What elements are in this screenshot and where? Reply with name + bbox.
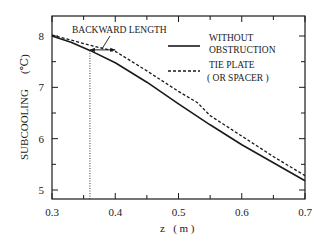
axis-tick-labels: 0.30.40.50.60.75678: [39, 30, 313, 218]
plot-frame: [52, 16, 305, 199]
y-tick-label: 8: [39, 30, 45, 42]
legend: WITHOUT OBSTRUCTION TIE PLATE ( OR SPACE…: [168, 33, 276, 84]
legend-solid-label-2: OBSTRUCTION: [209, 45, 276, 55]
y-tick-label: 7: [39, 81, 45, 93]
legend-solid-label-1: WITHOUT: [209, 33, 254, 43]
axis-ticks: [52, 16, 305, 199]
y-axis-unit: (℃): [18, 54, 31, 74]
x-tick-label: 0.6: [235, 206, 249, 218]
y-tick-label: 5: [39, 184, 45, 196]
line-chart: 0.30.40.50.60.75678 WITHOUT OBSTRUCTION …: [0, 0, 327, 247]
legend-dashed-label-2: ( OR SPACER ): [207, 73, 269, 84]
x-tick-label: 0.4: [108, 206, 122, 218]
y-tick-label: 6: [39, 133, 45, 145]
plot-border: [52, 16, 305, 199]
x-tick-label: 0.3: [45, 206, 59, 218]
backward-length-label: BACKWARD LENGTH: [72, 25, 167, 35]
x-tick-label: 0.7: [298, 206, 312, 218]
chart: 0.30.40.50.60.75678 WITHOUT OBSTRUCTION …: [0, 0, 327, 247]
x-tick-label: 0.5: [172, 206, 186, 218]
y-axis-label-group: SUBCOOLING (℃): [18, 54, 31, 160]
y-axis-label: SUBCOOLING: [18, 89, 30, 160]
annotation-leader-line: [102, 36, 110, 49]
legend-dashed-label-1: TIE PLATE: [209, 60, 255, 70]
x-axis-label: z ( m ): [160, 222, 195, 235]
